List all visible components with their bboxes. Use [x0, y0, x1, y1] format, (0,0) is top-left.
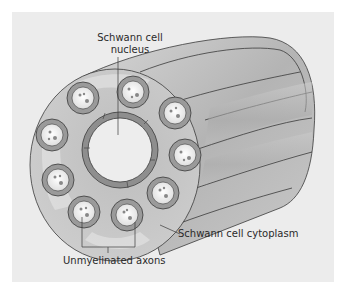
axon-4 [36, 119, 68, 151]
axon-5 [169, 139, 201, 171]
nucleus-label-line2: nucleus [85, 44, 175, 56]
axon-3 [159, 97, 191, 129]
axon-8 [68, 196, 100, 228]
axon-7 [147, 177, 179, 209]
axons-label: Unmyelinated axons [63, 255, 166, 267]
schwann-cell-nucleus [82, 112, 158, 188]
axon-2 [67, 82, 99, 114]
axon-6 [42, 164, 74, 196]
cytoplasm-label: Schwann cell cytoplasm [178, 228, 298, 240]
axon-1 [117, 76, 149, 108]
axon-9 [111, 199, 143, 231]
nucleus-label: Schwann cell nucleus [85, 32, 175, 56]
nucleus-label-line1: Schwann cell [85, 32, 175, 44]
